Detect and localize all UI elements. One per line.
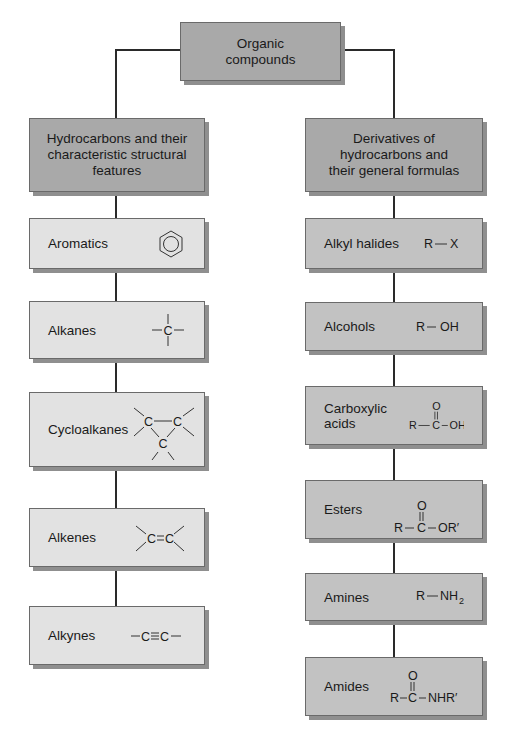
node-label: Cycloalkanes — [48, 422, 128, 437]
node-label: Amines — [324, 590, 369, 605]
svg-text:C: C — [165, 532, 174, 546]
svg-text:R: R — [409, 418, 417, 430]
connector-root-right-v — [393, 49, 395, 118]
node-label: Alcohols — [324, 319, 375, 334]
node-alkyl-halides: Alkyl halides R X — [305, 218, 483, 269]
svg-text:OH: OH — [449, 418, 464, 430]
amide-formula: O R C NHR′ — [390, 669, 464, 705]
svg-text:C: C — [141, 629, 150, 643]
node-label: Alkynes — [48, 628, 95, 643]
svg-text:R: R — [416, 589, 425, 603]
node-label: Alkenes — [48, 530, 96, 545]
benzene-ring-icon — [156, 229, 186, 259]
amine-formula: R NH 2 — [416, 587, 464, 607]
svg-text:C: C — [144, 415, 153, 429]
node-label: Alkanes — [48, 323, 96, 338]
connector-root-left-v — [115, 49, 117, 118]
svg-text:C: C — [147, 532, 156, 546]
node-esters: Esters O R C OR′ — [305, 480, 483, 539]
node-label: Alkyl halides — [324, 236, 399, 251]
svg-text:NHR′: NHR′ — [428, 691, 458, 705]
node-amines: Amines R NH 2 — [305, 573, 483, 621]
node-label: Amides — [324, 679, 369, 694]
svg-text:X: X — [450, 237, 459, 251]
connector-root-left-h — [115, 49, 180, 51]
node-alkynes: Alkynes C C — [29, 606, 205, 665]
tetrahedral-carbon-formula: C — [150, 313, 186, 347]
svg-text:OH: OH — [440, 320, 459, 334]
svg-text:C: C — [432, 418, 440, 430]
node-alcohols: Alcohols R OH — [305, 302, 483, 351]
cyclopropane-formula: C C C — [132, 400, 196, 460]
svg-text:NH: NH — [440, 589, 458, 603]
carboxylic-acid-formula: O R C OH — [409, 398, 464, 434]
svg-text:R: R — [416, 320, 425, 334]
node-label: Esters — [324, 502, 362, 517]
connector-root-right-h — [340, 49, 395, 51]
svg-text:C: C — [164, 324, 173, 338]
ester-formula: O R C OR′ — [394, 501, 464, 537]
branch-header-derivatives: Derivatives of hydrocarbons and their ge… — [305, 118, 483, 192]
svg-text:OR′: OR′ — [438, 521, 460, 535]
node-label: Carboxylic acids — [324, 401, 409, 431]
svg-text:C: C — [159, 437, 168, 451]
root-node-organic-compounds: Organic compounds — [180, 22, 341, 81]
alcohol-formula: R OH — [416, 318, 464, 336]
svg-text:2: 2 — [459, 596, 464, 606]
branch-header-hydrocarbons: Hydrocarbons and their characteristic st… — [29, 118, 205, 192]
node-label: Aromatics — [48, 236, 108, 251]
node-aromatics: Aromatics — [29, 218, 205, 269]
node-alkanes: Alkanes C — [29, 301, 205, 359]
svg-text:R: R — [394, 521, 403, 535]
svg-text:C: C — [160, 629, 169, 643]
svg-text:C: C — [408, 691, 417, 705]
node-amides: Amides O R C NHR′ — [305, 657, 483, 716]
svg-text:O: O — [432, 399, 440, 411]
svg-text:R: R — [424, 237, 433, 251]
alkene-double-bond-formula: C C — [134, 521, 186, 555]
alkyne-triple-bond-formula: C C — [130, 626, 186, 646]
svg-text:O: O — [408, 669, 418, 683]
node-carboxylic-acids: Carboxylic acids O R C OH — [305, 386, 483, 445]
svg-text:C: C — [417, 521, 426, 535]
node-cycloalkanes: Cycloalkanes C C C — [29, 392, 205, 467]
svg-text:R: R — [390, 691, 399, 705]
alkyl-halide-formula: R X — [424, 235, 464, 253]
node-alkenes: Alkenes C C — [29, 508, 205, 567]
svg-text:C: C — [173, 415, 182, 429]
svg-text:O: O — [417, 501, 427, 513]
